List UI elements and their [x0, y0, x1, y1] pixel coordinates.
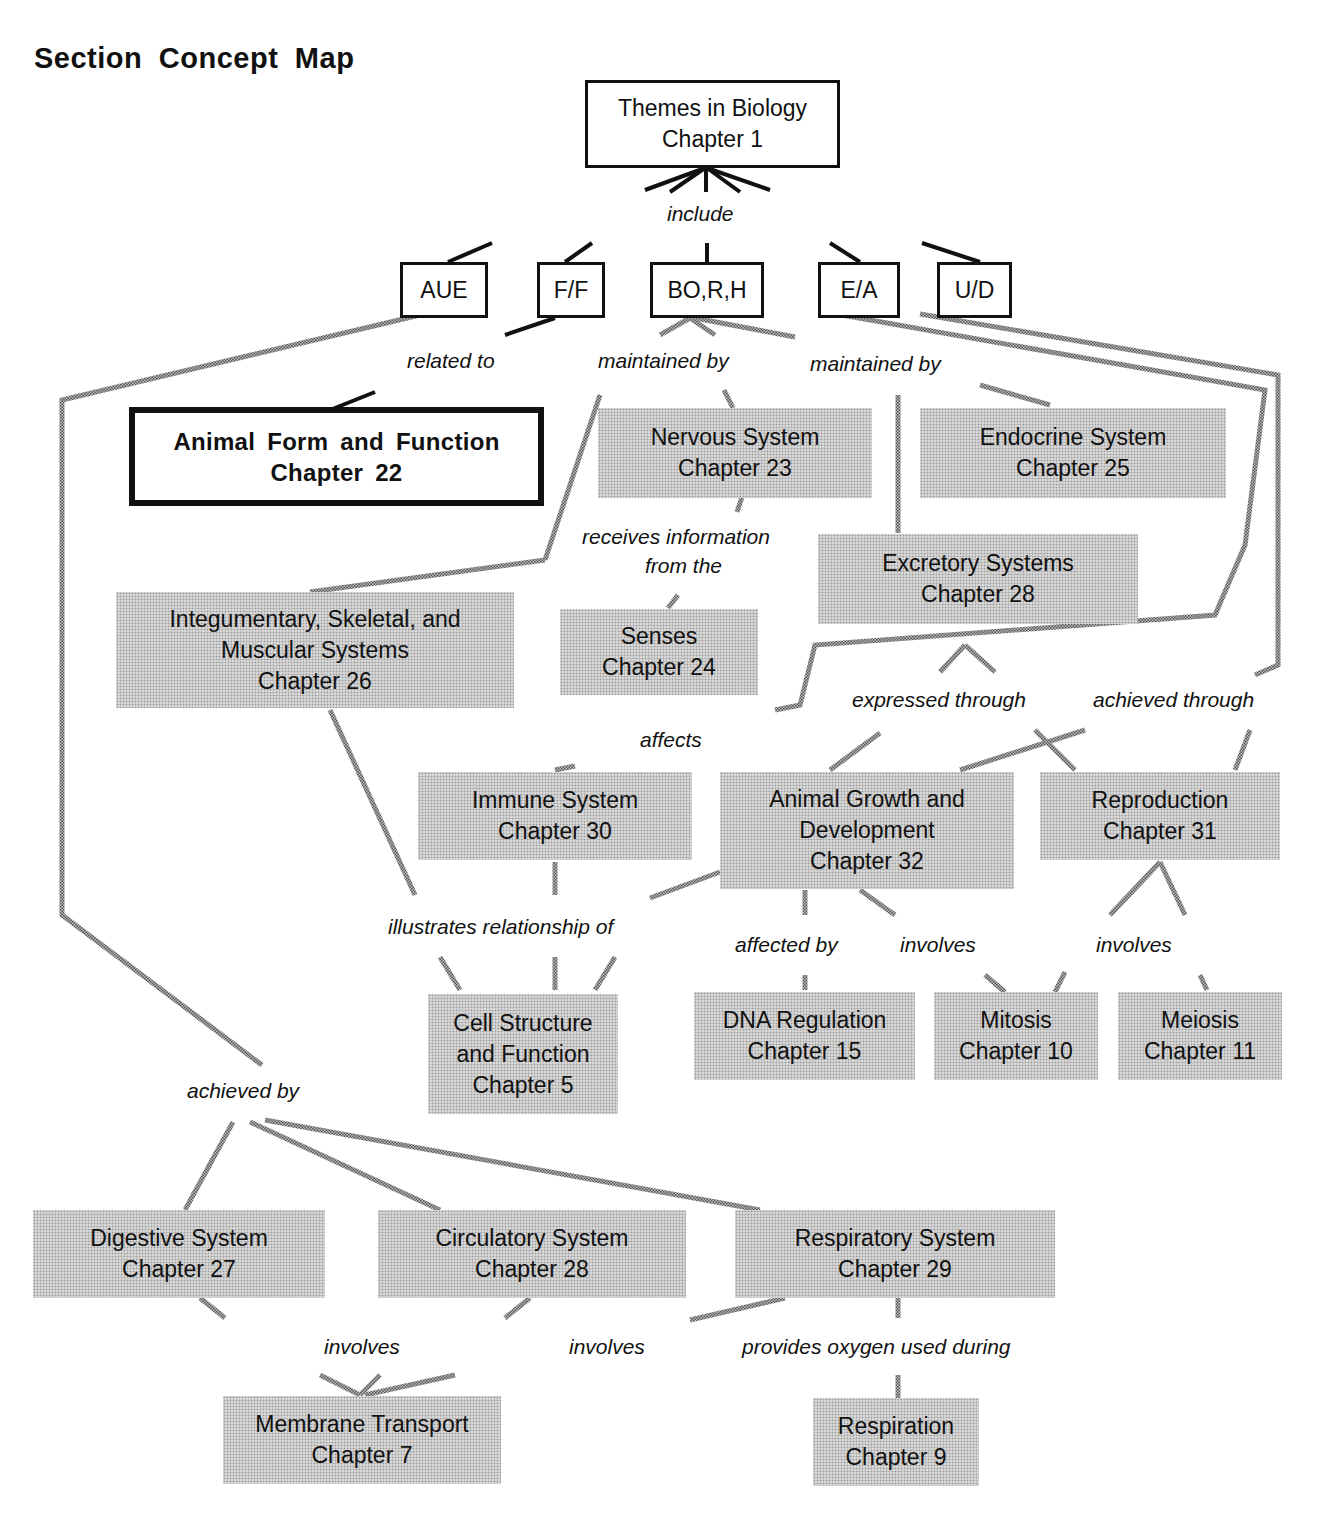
connector-lines	[0, 0, 1327, 1531]
node-endocrine-system: Endocrine System Chapter 25	[920, 408, 1226, 498]
node-chapter: Chapter 5	[472, 1070, 573, 1101]
node-chapter: Chapter 32	[810, 846, 924, 877]
node-membrane-transport: Membrane Transport Chapter 7	[223, 1396, 501, 1484]
node-meiosis: Meiosis Chapter 11	[1118, 992, 1282, 1080]
node-subtitle: Muscular Systems	[221, 635, 409, 666]
node-chapter: Chapter 15	[748, 1036, 862, 1067]
node-respiration: Respiration Chapter 9	[813, 1398, 979, 1486]
link-label-illustrates-relationship: illustrates relationship of	[388, 915, 613, 939]
link-label-affected-by: affected by	[735, 933, 838, 957]
node-title: Animal Form and Function	[173, 426, 499, 457]
node-nervous-system: Nervous System Chapter 23	[598, 408, 872, 498]
node-title: U/D	[955, 275, 995, 306]
node-chapter: Chapter 26	[258, 666, 372, 697]
node-chapter: Chapter 10	[959, 1036, 1073, 1067]
node-borh: BO,R,H	[650, 262, 764, 318]
link-label-achieved-by: achieved by	[187, 1079, 299, 1103]
link-label-involves-meiosis: involves	[1096, 933, 1172, 957]
node-animal-growth-development: Animal Growth and Development Chapter 32	[720, 772, 1014, 889]
node-integumentary-skeletal-muscular: Integumentary, Skeletal, and Muscular Sy…	[116, 592, 514, 708]
link-label-maintained-by-2: maintained by	[810, 352, 941, 376]
node-chapter: Chapter 30	[498, 816, 612, 847]
node-subtitle: and Function	[457, 1039, 590, 1070]
link-label-achieved-through: achieved through	[1093, 688, 1254, 712]
node-title: BO,R,H	[667, 275, 746, 306]
node-themes-in-biology: Themes in Biology Chapter 1	[585, 80, 840, 168]
link-label-involves-circulatory: involves	[569, 1335, 645, 1359]
link-label-provides-oxygen: provides oxygen used during	[742, 1335, 1011, 1359]
node-chapter: Chapter 28	[921, 579, 1035, 610]
link-label-affects: affects	[640, 728, 702, 752]
node-title: Meiosis	[1161, 1005, 1239, 1036]
link-label-from-the: from the	[645, 554, 722, 578]
node-title: Membrane Transport	[255, 1409, 468, 1440]
node-chapter: Chapter 25	[1016, 453, 1130, 484]
node-excretory-systems: Excretory Systems Chapter 28	[818, 534, 1138, 624]
link-label-maintained-by-1: maintained by	[598, 349, 729, 373]
node-aue: AUE	[400, 262, 488, 318]
node-title: Respiratory System	[795, 1223, 996, 1254]
node-digestive-system: Digestive System Chapter 27	[33, 1210, 325, 1298]
node-title: Nervous System	[651, 422, 820, 453]
node-title: Mitosis	[980, 1005, 1052, 1036]
link-label-expressed-through: expressed through	[852, 688, 1026, 712]
node-title: Themes in Biology	[618, 93, 807, 124]
node-title: Respiration	[838, 1411, 954, 1442]
link-label-include: include	[667, 202, 734, 226]
node-chapter: Chapter 27	[122, 1254, 236, 1285]
node-chapter: Chapter 28	[475, 1254, 589, 1285]
node-title: DNA Regulation	[723, 1005, 887, 1036]
link-label-receives-information: receives information	[582, 525, 770, 549]
node-chapter: Chapter 31	[1103, 816, 1217, 847]
node-respiratory-system: Respiratory System Chapter 29	[735, 1210, 1055, 1298]
node-title: AUE	[420, 275, 467, 306]
node-immune-system: Immune System Chapter 30	[418, 772, 692, 860]
link-label-involves-digestive: involves	[324, 1335, 400, 1359]
node-title: Circulatory System	[436, 1223, 629, 1254]
node-title: Integumentary, Skeletal, and	[169, 604, 460, 635]
node-title: Excretory Systems	[882, 548, 1074, 579]
node-title: Digestive System	[90, 1223, 268, 1254]
node-animal-form-function: Animal Form and Function Chapter 22	[129, 407, 544, 506]
link-label-related-to: related to	[407, 349, 495, 373]
node-title: Endocrine System	[980, 422, 1167, 453]
node-chapter: Chapter 22	[270, 457, 402, 488]
node-title: F/F	[554, 275, 589, 306]
node-chapter: Chapter 7	[311, 1440, 412, 1471]
node-mitosis: Mitosis Chapter 10	[934, 992, 1098, 1080]
node-chapter: Chapter 24	[602, 652, 716, 683]
node-chapter: Chapter 23	[678, 453, 792, 484]
node-ea: E/A	[818, 262, 900, 318]
node-subtitle: Development	[799, 815, 935, 846]
node-cell-structure-function: Cell Structure and Function Chapter 5	[428, 994, 618, 1114]
node-chapter: Chapter 1	[662, 124, 763, 155]
node-chapter: Chapter 11	[1144, 1036, 1256, 1067]
node-senses: Senses Chapter 24	[560, 609, 758, 695]
node-chapter: Chapter 9	[845, 1442, 946, 1473]
link-label-involves-mitosis: involves	[900, 933, 976, 957]
node-title: Immune System	[472, 785, 638, 816]
node-title: Senses	[621, 621, 698, 652]
node-title: E/A	[840, 275, 877, 306]
node-circulatory-system: Circulatory System Chapter 28	[378, 1210, 686, 1298]
node-ff: F/F	[537, 262, 605, 318]
node-title: Cell Structure	[453, 1008, 592, 1039]
node-ud: U/D	[937, 262, 1012, 318]
node-title: Animal Growth and	[769, 784, 965, 815]
node-dna-regulation: DNA Regulation Chapter 15	[694, 992, 915, 1080]
node-chapter: Chapter 29	[838, 1254, 952, 1285]
node-title: Reproduction	[1092, 785, 1229, 816]
node-reproduction: Reproduction Chapter 31	[1040, 772, 1280, 860]
